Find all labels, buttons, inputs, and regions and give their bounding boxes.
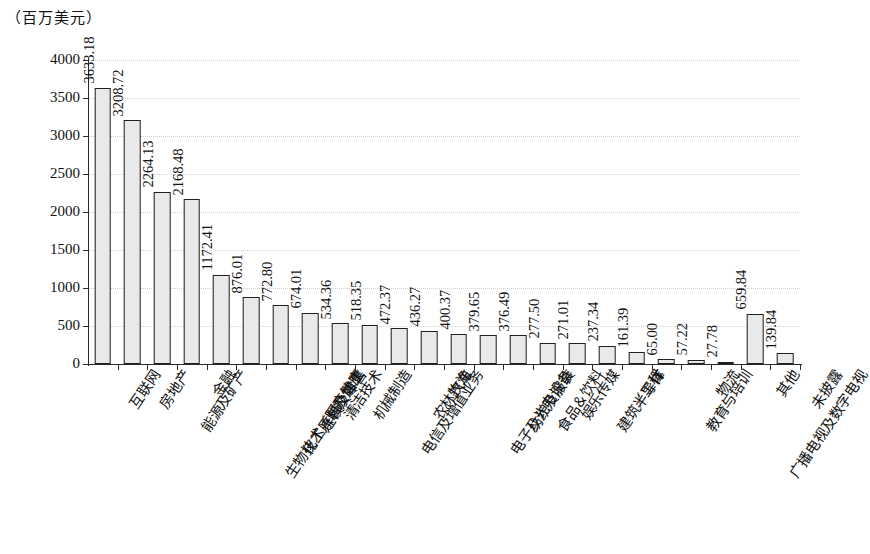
bar-value-label: 139.84 bbox=[764, 310, 779, 350]
x-axis-category-labels: 互联网房地产能源及矿产金融生物技术／医疗健康化工原料及加工连锁及零售清洁技术机械… bbox=[0, 368, 827, 554]
bar-value-label: 2264.13 bbox=[141, 141, 156, 188]
bar[interactable] bbox=[332, 323, 349, 364]
bar-value-label: 3208.72 bbox=[111, 69, 126, 116]
bar[interactable] bbox=[362, 325, 379, 364]
y-axis-tick-label: 3500 bbox=[18, 90, 80, 105]
bar-value-label: 376.49 bbox=[497, 292, 512, 332]
bar-value-label: 161.39 bbox=[615, 308, 630, 348]
y-axis-tick-label: 4000 bbox=[18, 52, 80, 67]
bar-slot: 2168.48 bbox=[177, 60, 207, 364]
y-axis-tick-label: 500 bbox=[18, 318, 80, 333]
bar-slot: 876.01 bbox=[236, 60, 266, 364]
x-axis-category-label: 互联网 bbox=[127, 368, 163, 411]
x-axis-category-label: 房地产 bbox=[157, 368, 193, 411]
bar-value-label: 271.01 bbox=[556, 300, 571, 340]
bar[interactable] bbox=[124, 120, 141, 364]
y-axis-tick-label: 1500 bbox=[18, 242, 80, 257]
bar-value-label: 472.37 bbox=[378, 284, 393, 324]
y-axis-tick-label: 3000 bbox=[18, 128, 80, 143]
bar[interactable] bbox=[540, 343, 557, 364]
bar[interactable] bbox=[391, 328, 408, 364]
bar-slot: 139.84 bbox=[770, 60, 800, 364]
bar-value-label: 518.35 bbox=[348, 281, 363, 321]
bar-slot: 1172.41 bbox=[207, 60, 237, 364]
bar[interactable] bbox=[243, 297, 260, 364]
y-axis-tick-label: 1000 bbox=[18, 280, 80, 295]
bar-value-label: 400.37 bbox=[437, 290, 452, 330]
bar[interactable] bbox=[569, 343, 586, 364]
y-axis-tick-label: 2000 bbox=[18, 204, 80, 219]
bar[interactable] bbox=[747, 314, 764, 364]
bar[interactable] bbox=[95, 88, 112, 364]
x-axis-category-label: 其他 bbox=[774, 368, 802, 400]
bar[interactable] bbox=[599, 346, 616, 364]
bar[interactable] bbox=[777, 353, 794, 364]
bar[interactable] bbox=[451, 334, 468, 364]
bar-value-label: 379.65 bbox=[467, 291, 482, 331]
bar[interactable] bbox=[273, 305, 290, 364]
bar[interactable] bbox=[510, 335, 527, 364]
x-axis-line bbox=[88, 364, 802, 365]
bar-value-label: 2168.48 bbox=[170, 148, 185, 195]
bar[interactable] bbox=[302, 313, 319, 364]
bar-value-label: 3633.18 bbox=[81, 37, 96, 84]
y-axis-unit-label: （百万美元） bbox=[6, 6, 102, 27]
bar-value-label: 674.01 bbox=[289, 269, 304, 309]
bar-slot: 3208.72 bbox=[118, 60, 148, 364]
bar-slot: 2264.13 bbox=[147, 60, 177, 364]
bar-value-label: 436.27 bbox=[408, 287, 423, 327]
bar-value-label: 772.80 bbox=[259, 261, 274, 301]
bar-slot: 27.78 bbox=[711, 60, 741, 364]
plot-area: 3633.183208.722264.132168.481172.41876.0… bbox=[88, 60, 800, 364]
bar-value-label: 659.84 bbox=[734, 270, 749, 310]
bar[interactable] bbox=[688, 360, 705, 364]
bar-value-label: 237.34 bbox=[586, 302, 601, 342]
bar-slot: 65.00 bbox=[652, 60, 682, 364]
bar[interactable] bbox=[213, 275, 230, 364]
bar-value-label: 57.22 bbox=[675, 323, 690, 356]
bar-value-label: 1172.41 bbox=[200, 224, 215, 271]
bar[interactable] bbox=[480, 335, 497, 364]
bar-value-label: 27.78 bbox=[704, 325, 719, 358]
bar-value-label: 65.00 bbox=[645, 322, 660, 355]
bar[interactable] bbox=[718, 362, 735, 364]
bar-value-label: 534.36 bbox=[319, 280, 334, 320]
bar[interactable] bbox=[154, 192, 171, 364]
bar[interactable] bbox=[421, 331, 438, 364]
bar[interactable] bbox=[658, 359, 675, 364]
bar-slot: 57.22 bbox=[681, 60, 711, 364]
bar-value-label: 876.01 bbox=[230, 254, 245, 294]
y-axis-tick-label: 2500 bbox=[18, 166, 80, 181]
bar-value-label: 277.50 bbox=[526, 299, 541, 339]
bar-slot: 772.80 bbox=[266, 60, 296, 364]
bar-slot: 161.39 bbox=[622, 60, 652, 364]
